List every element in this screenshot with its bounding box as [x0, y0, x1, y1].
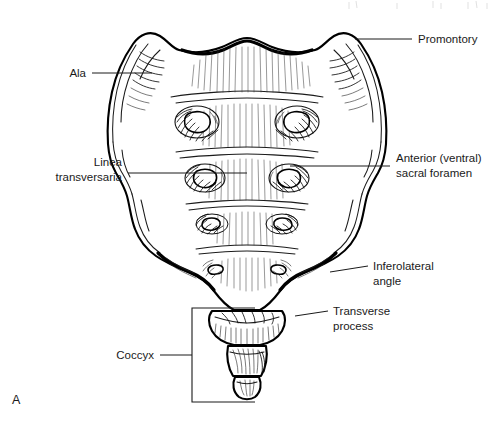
- label-inferolateral-angle-line1: Inferolateral: [373, 260, 434, 272]
- label-coccyx: Coccyx: [116, 349, 154, 361]
- label-transverse-process-line2: process: [333, 320, 374, 332]
- label-transverse-process-line1: Transverse: [333, 305, 390, 317]
- label-inferolateral-angle-line2: angle: [373, 275, 401, 287]
- label-anterior-sacral-foramen-line2: sacral foramen: [396, 167, 472, 179]
- label-linea-transversaria-line1: Linea: [94, 156, 123, 168]
- label-linea-transversaria-line2: transversaria: [56, 171, 123, 183]
- label-anterior-sacral-foramen-line1: Anterior (ventral): [396, 152, 482, 164]
- figure-panel-letter: A: [12, 393, 21, 407]
- anatomical-figure-sacrum: Promontory Ala Linea transversaria Anter…: [0, 0, 493, 426]
- label-promontory: Promontory: [418, 33, 478, 45]
- label-ala: Ala: [69, 67, 86, 79]
